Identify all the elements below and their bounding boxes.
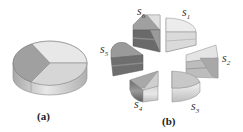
caption-b: (b) [162,115,176,128]
label-s2: s2 [222,51,231,67]
slice-s6 [133,15,160,52]
label-s6: s6 [137,4,146,20]
slice-s1 [166,18,196,52]
slice-s2 [186,45,218,78]
figure: (a) [0,0,243,132]
label-s5: s5 [100,42,109,58]
pie-panel-b [111,15,218,102]
pie-panel-a [13,41,87,95]
caption-a: (a) [37,110,50,123]
label-s1: s1 [182,5,190,21]
label-s3: s3 [191,99,200,115]
